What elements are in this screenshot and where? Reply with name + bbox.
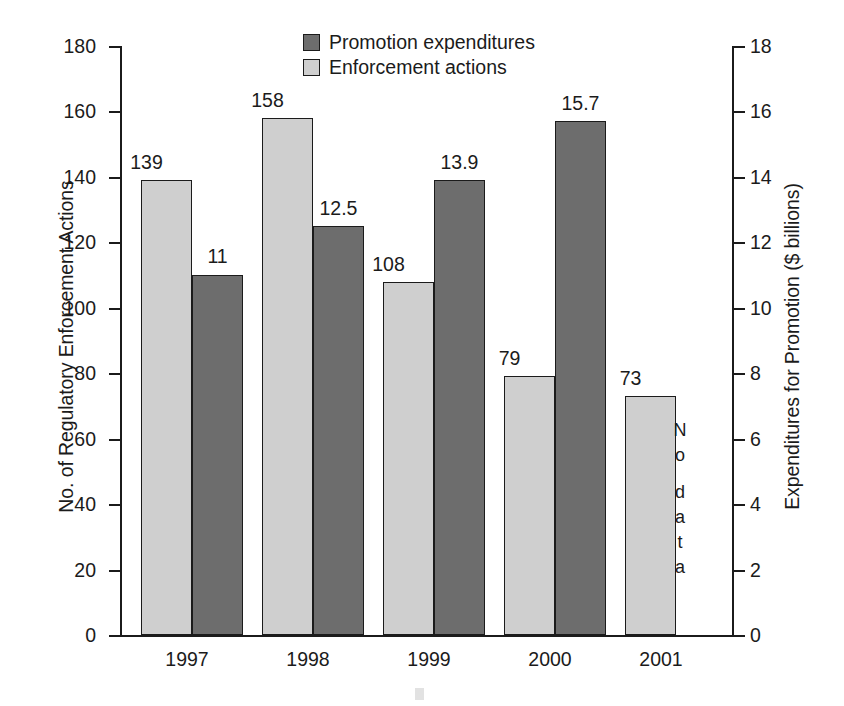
right-tick-16 — [734, 111, 745, 113]
left-tick-100 — [109, 308, 120, 310]
plot-area — [122, 46, 733, 635]
bar-label-2001-enforcement: 73 — [605, 369, 656, 389]
right-tick-2 — [734, 570, 745, 572]
bar-label-2000-enforcement: 79 — [484, 349, 535, 369]
bar-1997-promotion-expenditures[interactable] — [192, 275, 243, 635]
bar-1999-enforcement-actions[interactable] — [383, 282, 434, 635]
legend-label-enforcement-actions: Enforcement actions — [329, 58, 507, 78]
no-data-letter-2: o — [667, 443, 693, 468]
right-tick-6 — [734, 439, 745, 441]
legend-swatch-light-icon — [303, 59, 320, 76]
x-axis-line — [120, 635, 735, 637]
bar-1998-promotion-expenditures[interactable] — [313, 226, 364, 635]
x-tick-label-2000: 2000 — [494, 650, 606, 670]
x-tick-label-1997: 1997 — [131, 650, 243, 670]
bar-2000-promotion-expenditures[interactable] — [555, 121, 606, 635]
legend-swatch-dark-icon — [303, 34, 320, 51]
no-data-letter-5: t — [667, 530, 693, 555]
right-tick-18 — [734, 46, 745, 48]
right-tick-label-6: 6 — [750, 430, 761, 450]
left-tick-label-120: 120 — [63, 233, 96, 253]
right-tick-14 — [734, 177, 745, 179]
bar-label-1999-enforcement: 108 — [363, 255, 414, 275]
right-tick-label-12: 12 — [750, 233, 772, 253]
bar-label-1998-enforcement: 158 — [242, 91, 293, 111]
right-tick-label-8: 8 — [750, 364, 761, 384]
right-axis-title: Expenditures for Promotion ($ billions) — [781, 67, 804, 627]
legend: Promotion expenditures Enforcement actio… — [303, 31, 535, 81]
bar-1999-promotion-expenditures[interactable] — [434, 180, 485, 635]
left-tick-label-100: 100 — [63, 299, 96, 319]
no-data-letter-3: d — [667, 480, 693, 505]
bar-label-2000-promotion: 15.7 — [555, 94, 606, 114]
x-tick-label-1998: 1998 — [252, 650, 364, 670]
left-tick-label-80: 80 — [74, 364, 96, 384]
left-axis-title: No. of Regulatory Enforcement Actions — [55, 67, 78, 627]
right-tick-label-0: 0 — [750, 626, 761, 646]
no-data-letter-4: a — [667, 505, 693, 530]
right-tick-label-18: 18 — [750, 37, 772, 57]
bar-label-1997-promotion: 11 — [192, 247, 243, 267]
bar-1997-enforcement-actions[interactable] — [141, 180, 192, 635]
left-tick-label-160: 160 — [63, 102, 96, 122]
bar-2000-enforcement-actions[interactable] — [504, 376, 555, 635]
left-tick-60 — [109, 439, 120, 441]
right-tick-12 — [734, 242, 745, 244]
bar-label-1997-enforcement: 139 — [121, 153, 172, 173]
left-tick-160 — [109, 111, 120, 113]
left-tick-label-60: 60 — [74, 430, 96, 450]
right-tick-label-16: 16 — [750, 102, 772, 122]
left-tick-label-40: 40 — [74, 495, 96, 515]
bar-label-1998-promotion: 12.5 — [313, 199, 364, 219]
right-tick-10 — [734, 308, 745, 310]
bar-chart: No. of Regulatory Enforcement Actions Ex… — [0, 0, 844, 706]
no-data-letter-1: N — [667, 418, 693, 443]
right-tick-label-14: 14 — [750, 168, 772, 188]
left-tick-40 — [109, 504, 120, 506]
left-tick-label-20: 20 — [74, 561, 96, 581]
legend-item-enforcement-actions[interactable]: Enforcement actions — [303, 56, 535, 79]
left-tick-180 — [109, 46, 120, 48]
legend-label-promotion-expenditures: Promotion expenditures — [329, 33, 535, 53]
bar-label-1999-promotion: 13.9 — [434, 153, 485, 173]
right-tick-4 — [734, 504, 745, 506]
left-tick-0 — [109, 635, 120, 637]
left-tick-20 — [109, 570, 120, 572]
left-tick-120 — [109, 242, 120, 244]
bar-1998-enforcement-actions[interactable] — [262, 118, 313, 635]
left-tick-140 — [109, 177, 120, 179]
legend-item-promotion-expenditures[interactable]: Promotion expenditures — [303, 31, 535, 54]
left-tick-label-180: 180 — [63, 37, 96, 57]
right-tick-8 — [734, 373, 745, 375]
left-tick-label-0: 0 — [85, 626, 96, 646]
right-tick-label-10: 10 — [750, 299, 772, 319]
left-tick-80 — [109, 373, 120, 375]
x-tick-label-2001: 2001 — [605, 650, 717, 670]
right-tick-label-4: 4 — [750, 495, 761, 515]
no-data-annotation: N o d a t a — [667, 418, 693, 580]
right-tick-label-2: 2 — [750, 561, 761, 581]
scan-artifact — [415, 688, 424, 700]
left-tick-label-140: 140 — [63, 168, 96, 188]
no-data-word-gap — [667, 468, 693, 480]
right-tick-0 — [734, 635, 745, 637]
x-tick-label-1999: 1999 — [373, 650, 485, 670]
no-data-letter-6: a — [667, 555, 693, 580]
